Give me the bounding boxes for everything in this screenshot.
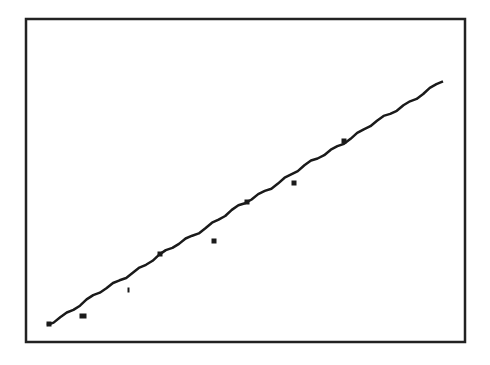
data-point (245, 200, 250, 205)
data-point (212, 239, 217, 244)
data-point (158, 252, 163, 257)
data-point (47, 322, 52, 327)
data-point (342, 139, 347, 144)
scatter-chart (0, 0, 490, 365)
plot-frame (26, 19, 465, 342)
data-point (128, 288, 130, 293)
data-point (80, 314, 87, 319)
data-point (292, 181, 297, 186)
